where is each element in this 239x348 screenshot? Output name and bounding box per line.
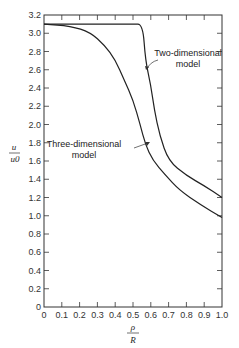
x-tick-label: 0.7 [162,310,175,320]
y-tick-label: 3.0 [28,28,41,38]
y-tick-label: 2.8 [28,47,41,57]
x-tick-label: 0.8 [180,310,193,320]
y-tick-label: 2.2 [28,101,41,111]
y-tick-label: 1.4 [28,174,41,184]
x-tick-label: 0.2 [73,310,86,320]
annotation-three-dimensional-line2: model [72,150,97,160]
y-tick-label: 1.2 [28,193,41,203]
annotation-three-dimensional-line1: Three-dimensional [47,139,122,149]
y-tick-label: 0.4 [28,266,41,276]
x-tick-label: 0.9 [198,310,211,320]
y-tick-label: 3.2 [28,10,41,20]
y-tick-label: 0.2 [28,284,41,294]
x-tick-label: 0.4 [109,310,122,320]
x-axis-label-numerator: ρ [130,322,136,332]
x-tick-label: 1.0 [216,310,229,320]
x-tick-label: 0 [41,310,46,320]
y-axis-label-numerator: u [12,142,17,152]
x-axis-label-denominator: R [129,335,136,345]
y-tick-label: 2.6 [28,65,41,75]
y-tick-label: 0.6 [28,247,41,257]
y-tick-label: 0.8 [28,229,41,239]
annotation-two-dimensional-line1: Two-dimensional [154,48,222,58]
y-tick-label: 1.0 [28,211,41,221]
y-axis-label-denominator: u0 [11,154,21,164]
y-tick-label: 1.6 [28,156,41,166]
annotation-two-dimensional-arrow [147,60,158,69]
x-tick-label: 0.6 [145,310,158,320]
x-tick-label: 0.5 [127,310,140,320]
x-tick-label: 0.3 [91,310,104,320]
y-tick-label: 0 [36,302,41,312]
x-tick-label: 0.1 [56,310,69,320]
y-tick-label: 2.4 [28,83,41,93]
y-tick-label: 2.0 [28,120,41,130]
annotation-two-dimensional-line2: model [176,59,201,69]
chart: 00.10.20.30.40.50.60.70.80.91.000.20.40.… [0,0,239,348]
y-tick-label: 1.8 [28,138,41,148]
